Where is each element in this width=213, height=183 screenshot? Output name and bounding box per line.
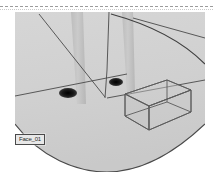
app-root: Face_01 bbox=[0, 0, 213, 183]
post-shadow-left bbox=[59, 88, 77, 98]
perspective-viewport[interactable] bbox=[15, 12, 205, 172]
top-dotted-divider bbox=[0, 9, 213, 11]
top-dashed-divider bbox=[0, 6, 213, 8]
selection-face-label[interactable]: Face_01 bbox=[15, 134, 45, 145]
post-shadow-right bbox=[109, 78, 123, 86]
